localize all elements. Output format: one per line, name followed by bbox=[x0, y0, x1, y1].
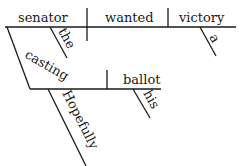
word-the: the bbox=[55, 25, 79, 51]
sentence-diagram: senator wanted victory the a casting bal… bbox=[0, 0, 240, 166]
word-senator: senator bbox=[18, 10, 69, 25]
word-wanted: wanted bbox=[105, 10, 154, 25]
word-hopefully: Hopefully bbox=[59, 88, 102, 152]
word-victory: victory bbox=[178, 10, 225, 25]
word-ballot: ballot bbox=[123, 72, 161, 87]
